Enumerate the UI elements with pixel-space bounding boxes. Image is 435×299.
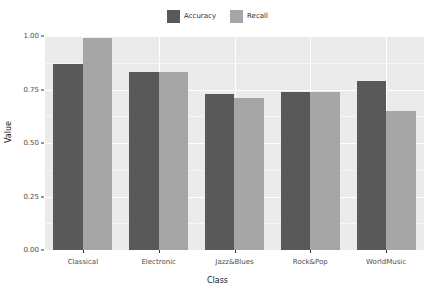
y-tick-mark (41, 196, 44, 197)
bar-recall-rock-pop (310, 92, 340, 250)
bar-series-container (45, 36, 424, 250)
bar-group (53, 36, 112, 250)
bar-accuracy-classical (53, 64, 83, 250)
y-axis-ticks: 0.000.250.500.751.00 (0, 36, 45, 250)
legend-label: Recall (247, 13, 268, 20)
legend-swatch-icon (230, 10, 243, 23)
legend-swatch-icon (167, 10, 180, 23)
x-tick-label: Rock&Pop (293, 258, 328, 266)
x-tick-mark (235, 250, 236, 253)
bar-recall-jazz-blues (234, 98, 264, 250)
x-tick-label: WorldMusic (366, 258, 406, 266)
bar-recall-worldmusic (386, 111, 416, 250)
legend-entry-recall: Recall (230, 10, 268, 23)
chart-legend: AccuracyRecall (0, 10, 435, 23)
bar-accuracy-worldmusic (357, 81, 387, 250)
x-axis-title: Class (0, 276, 435, 285)
x-tick-label: Classical (68, 258, 98, 266)
y-tick-label: 0.50 (23, 139, 39, 147)
bar-group (357, 36, 416, 250)
bar-group (205, 36, 264, 250)
y-tick-mark (41, 36, 44, 37)
bar-chart: AccuracyRecall 0.000.250.500.751.00 Clas… (0, 0, 435, 299)
y-tick-label: 0.75 (23, 86, 39, 94)
bar-group (129, 36, 188, 250)
bar-accuracy-jazz-blues (205, 94, 235, 250)
bar-accuracy-electronic (129, 72, 159, 250)
bar-group (281, 36, 340, 250)
y-tick-label: 1.00 (23, 32, 39, 40)
plot-panel (45, 36, 424, 250)
x-tick-mark (159, 250, 160, 253)
x-tick-label: Electronic (141, 258, 176, 266)
legend-label: Accuracy (184, 13, 216, 20)
y-tick-label: 0.00 (23, 246, 39, 254)
y-tick-mark (41, 143, 44, 144)
x-axis-ticks: ClassicalElectronicJazz&BluesRock&PopWor… (45, 250, 424, 272)
x-tick-mark (83, 250, 84, 253)
y-axis-title: Value (4, 121, 13, 143)
bar-recall-classical (83, 38, 113, 250)
bar-recall-electronic (159, 72, 189, 250)
x-tick-mark (386, 250, 387, 253)
x-tick-mark (310, 250, 311, 253)
bar-accuracy-rock-pop (281, 92, 311, 250)
y-tick-mark (41, 250, 44, 251)
x-tick-label: Jazz&Blues (215, 258, 253, 266)
y-tick-label: 0.25 (23, 193, 39, 201)
legend-entry-accuracy: Accuracy (167, 10, 216, 23)
y-tick-mark (41, 89, 44, 90)
